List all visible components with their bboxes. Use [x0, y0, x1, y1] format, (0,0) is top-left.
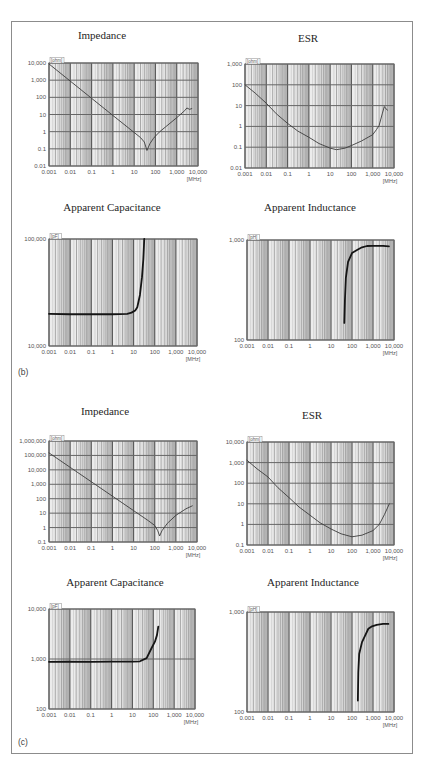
x-tick-label: 10 [130, 349, 137, 355]
panel-label-c: (c) [18, 737, 28, 747]
y-axis-unit: [ohm] [51, 58, 62, 63]
x-tick-label: 0.1 [285, 343, 294, 349]
y-tick-label: 100 [234, 480, 245, 486]
chart-title-impedance-c: Impedance [5, 404, 205, 418]
x-tick-label: 0.01 [260, 171, 272, 177]
x-tick-label: 0.1 [87, 545, 96, 551]
y-axis-unit: [ohm] [51, 436, 62, 441]
x-tick-label: 100 [346, 171, 357, 177]
x-tick-label: 0.01 [262, 343, 274, 349]
x-tick-label: 100 [347, 548, 358, 554]
x-tick-label: 100 [150, 169, 161, 175]
y-tick-label: 100,000 [24, 452, 46, 458]
plot-grid [49, 63, 198, 166]
x-tick-label: 1,000 [365, 548, 381, 554]
apparent-capacitance-chart-c: 10,0001,0001000.0010.010.11101001,00010,… [49, 609, 195, 709]
x-tick-label: 10,000 [385, 343, 404, 349]
x-tick-label: 0.01 [64, 545, 76, 551]
x-tick-label: 0.01 [262, 715, 274, 721]
apparent-inductance-chart-c: 1,0001000.0010.010.11101001,00010,000[MH… [247, 612, 394, 712]
x-tick-label: 0.1 [87, 349, 96, 355]
x-tick-label: 0.001 [41, 349, 57, 355]
chart-title-esr-c: ESR [212, 408, 412, 422]
chart-title-apparent-capacitance-c: Apparent Capacitance [15, 575, 215, 589]
y-tick-label: 10 [39, 112, 46, 118]
x-tick-label: 0.1 [285, 715, 294, 721]
x-tick-label: 0.01 [64, 169, 76, 175]
x-tick-label: 1,000 [365, 343, 381, 349]
x-tick-label: 10 [131, 169, 138, 175]
y-axis-unit: [ohm] [249, 437, 260, 442]
y-tick-label: 1,000 [229, 460, 245, 466]
y-axis-unit: [ohm] [247, 59, 258, 64]
y-tick-label: 100 [232, 82, 243, 88]
y-tick-label: 0.1 [38, 146, 47, 152]
y-tick-label: 1,000,000 [19, 438, 46, 444]
plot-grid [247, 442, 394, 545]
x-tick-label: 100 [347, 715, 358, 721]
panel-label-b: (b) [18, 367, 28, 377]
chart-title-apparent-inductance-c: Apparent Inductance [213, 575, 413, 589]
plot-grid [49, 609, 195, 709]
x-tick-label: 10,000 [188, 545, 207, 551]
plot-grid [247, 240, 394, 340]
y-axis-unit: [pH] [249, 607, 257, 612]
x-tick-label: 1,000 [168, 349, 184, 355]
x-tick-label: 0.1 [87, 169, 96, 175]
x-tick-label: 10,000 [385, 171, 404, 177]
x-tick-label: 0.001 [239, 715, 255, 721]
x-tick-label: 100 [150, 545, 161, 551]
chart-title-esr-b: ESR [208, 31, 408, 45]
x-tick-label: 100 [347, 343, 358, 349]
x-axis-unit: [MHz] [383, 722, 398, 728]
x-tick-label: 0.1 [285, 548, 294, 554]
plot-grid [245, 64, 394, 168]
x-tick-label: 10,000 [188, 349, 207, 355]
x-tick-label: 1,000 [168, 545, 184, 551]
y-tick-label: 0.1 [234, 144, 243, 150]
chart-title-apparent-inductance-b: Apparent Inductance [210, 200, 410, 214]
x-tick-label: 100 [148, 712, 159, 718]
x-tick-label: 10 [328, 715, 335, 721]
esr-chart-b: 1,0001001010.10.010.0010.010.11101001,00… [245, 64, 394, 168]
x-tick-label: 10,000 [385, 548, 404, 554]
y-tick-label: 1,000 [31, 656, 47, 662]
y-tick-label: 1,000 [229, 609, 245, 615]
x-axis-unit: [MHz] [383, 178, 398, 184]
x-tick-label: 10,000 [186, 712, 205, 718]
x-axis-unit: [MHz] [186, 356, 201, 362]
apparent-capacitance-chart-b: 100,00010,0000.0010.010.11101001,00010,0… [49, 239, 197, 346]
y-tick-label: 10 [235, 103, 242, 109]
y-axis-unit: [pF] [51, 234, 59, 239]
x-axis-unit: [MHz] [184, 719, 199, 725]
y-tick-label: 1,000 [31, 77, 47, 83]
x-tick-label: 0.1 [283, 171, 292, 177]
x-axis-unit: [MHz] [186, 552, 201, 558]
x-tick-label: 10 [130, 545, 137, 551]
plot-grid [49, 239, 197, 346]
x-tick-label: 0.001 [41, 169, 57, 175]
x-tick-label: 10 [328, 343, 335, 349]
x-tick-label: 0.001 [41, 712, 57, 718]
apparent-inductance-chart-b: 1,0001000.0010.010.11101001,00010,000[MH… [247, 240, 394, 340]
y-tick-label: 100 [36, 496, 47, 502]
x-tick-label: 0.01 [64, 349, 76, 355]
y-tick-label: 10 [237, 501, 244, 507]
x-tick-label: 10 [327, 171, 334, 177]
impedance-chart-c: 1,000,000100,00010,0001,0001001010.10.00… [49, 441, 197, 542]
y-tick-label: 1,000 [227, 61, 243, 67]
x-tick-label: 0.001 [41, 545, 57, 551]
x-tick-label: 0.01 [262, 548, 274, 554]
chart-title-impedance-b: Impedance [2, 28, 202, 42]
x-axis-unit: [MHz] [383, 555, 398, 561]
y-tick-label: 10,000 [28, 467, 47, 473]
x-tick-label: 0.001 [237, 171, 253, 177]
esr-chart-c: 10,0001,0001001010.10.0010.010.11101001,… [247, 442, 394, 545]
x-tick-label: 10,000 [385, 715, 404, 721]
x-tick-label: 0.01 [64, 712, 76, 718]
x-axis-unit: [MHz] [383, 350, 398, 356]
x-tick-label: 10 [129, 712, 136, 718]
plot-grid [49, 441, 197, 542]
y-tick-label: 10 [39, 510, 46, 516]
x-tick-label: 1,000 [167, 712, 183, 718]
